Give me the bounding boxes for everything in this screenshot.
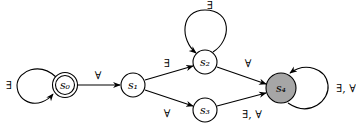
edge-s1-s3 (145, 90, 193, 106)
node-label-s2: s₂ (200, 56, 210, 69)
edge-s0-self (17, 69, 56, 103)
edge-s3-s4 (217, 93, 266, 106)
node-label-s0: s₀ (60, 79, 71, 92)
node-s1: s₁ (121, 73, 145, 97)
edge-label-s4-self: ∃, ∀ (336, 82, 356, 95)
edge-label-s2-self: ∃ (207, 0, 213, 12)
node-s4: s₄ (266, 73, 296, 103)
automaton-diagram: ∃ ∀ ∃ ∀ ∃ ∀ ∃, ∀ ∃, ∀ s₀ s₁ s₂ s₃ s₄ (0, 0, 356, 130)
edge-label-s2-s4: ∀ (245, 57, 252, 70)
edge-s2-self (185, 10, 226, 53)
node-label-s1: s₁ (128, 79, 138, 92)
node-s3: s₃ (193, 98, 217, 122)
node-label-s3: s₃ (200, 104, 210, 117)
node-s2: s₂ (193, 50, 217, 74)
node-s0: s₀ (53, 73, 78, 98)
edge-label-s0-self: ∃ (6, 79, 12, 92)
edge-label-s3-s4: ∃, ∀ (242, 108, 262, 121)
edge-s2-s4 (217, 67, 266, 84)
node-label-s4: s₄ (276, 82, 286, 95)
edge-label-s1-s2: ∃ (164, 57, 170, 70)
edge-label-s0-s1: ∀ (95, 69, 102, 82)
edge-label-s1-s3: ∀ (164, 107, 171, 120)
